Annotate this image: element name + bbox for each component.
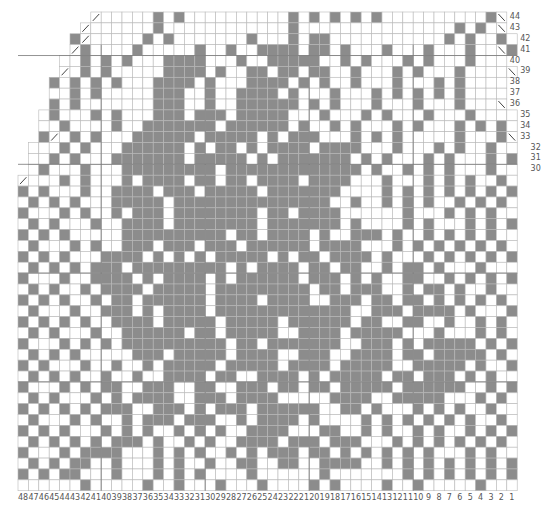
chart-cell-dark — [132, 164, 142, 175]
chart-cell-light — [434, 186, 444, 197]
chart-cell-dark — [70, 306, 80, 317]
chart-cell-dark — [164, 404, 174, 415]
chart-cell-dark — [330, 88, 340, 99]
chart-cell-light — [257, 132, 267, 143]
chart-cell-dark — [392, 371, 402, 382]
chart-cell-dark — [320, 66, 330, 77]
chart-cell-dark — [268, 121, 278, 132]
chart-cell-light — [444, 143, 454, 154]
chart-cell-dark — [153, 153, 163, 164]
chart-cell-light — [205, 306, 215, 317]
chart-cell-light — [392, 99, 402, 110]
chart-cell-light — [226, 425, 236, 436]
chart-cell-dark — [340, 251, 350, 262]
chart-cell-light — [257, 143, 267, 154]
chart-cell-dark — [476, 121, 486, 132]
chart-cell-light — [101, 230, 111, 241]
chart-cell-dark — [278, 273, 288, 284]
chart-cell-light — [392, 186, 402, 197]
chart-cell-dark — [60, 425, 70, 436]
chart-cell-light — [465, 12, 475, 23]
chart-cell-light — [49, 415, 59, 426]
chart-cell-light — [444, 23, 454, 34]
chart-cell-dark — [486, 284, 496, 295]
chart-cell-dark — [330, 240, 340, 251]
chart-cell-light — [28, 230, 38, 241]
chart-cell-dark — [174, 132, 184, 143]
chart-cell-dark — [60, 230, 70, 241]
chart-cell-light — [101, 77, 111, 88]
chart-cell-light — [91, 23, 101, 34]
chart-cell-dark — [247, 143, 257, 154]
chart-cell-light — [101, 186, 111, 197]
chart-cell-dark — [507, 360, 517, 371]
chart-cell-dark — [330, 371, 340, 382]
chart-cell-light — [476, 219, 486, 230]
chart-cell-dark — [496, 197, 506, 208]
chart-cell-light — [476, 371, 486, 382]
chart-cell-dark — [132, 143, 142, 154]
chart-cell-dark — [195, 415, 205, 426]
chart-cell-light — [195, 34, 205, 45]
chart-cell-light — [236, 77, 246, 88]
chart-cell-light — [195, 77, 205, 88]
chart-cell-light — [288, 425, 298, 436]
chart-cell-dark — [320, 208, 330, 219]
chart-cell-dark — [174, 262, 184, 273]
chart-cell-dark — [351, 251, 361, 262]
chart-cell-dark — [257, 480, 267, 491]
chart-cell-light — [216, 458, 226, 469]
chart-cell-light — [195, 88, 205, 99]
chart-cell-light — [372, 175, 382, 186]
chart-cell-light — [299, 393, 309, 404]
chart-cell-light — [392, 56, 402, 67]
chart-cell-light — [226, 480, 236, 491]
chart-cell-dark — [18, 208, 28, 219]
chart-cell-light — [413, 132, 423, 143]
column-label: 24 — [268, 493, 278, 503]
chart-cell-light — [80, 219, 90, 230]
chart-cell-dark — [184, 273, 194, 284]
chart-cell-dark — [278, 262, 288, 273]
chart-cell-light — [496, 469, 506, 480]
chart-cell-dark — [351, 393, 361, 404]
chart-cell-light — [288, 251, 298, 262]
chart-cell-light — [309, 295, 319, 306]
chart-cell-dark — [205, 219, 215, 230]
chart-cell-light — [226, 458, 236, 469]
chart-cell-light — [112, 480, 122, 491]
chart-cell-dark — [278, 121, 288, 132]
chart-cell-dark — [247, 295, 257, 306]
chart-cell-dark — [216, 230, 226, 241]
chart-cell-dark — [268, 110, 278, 121]
chart-cell-dark — [288, 338, 298, 349]
chart-cell-dark — [205, 164, 215, 175]
chart-cell-dark — [455, 99, 465, 110]
chart-cell-dark — [236, 382, 246, 393]
chart-cell-dark — [122, 175, 132, 186]
chart-cell-dark — [486, 230, 496, 241]
chart-cell-dark — [257, 251, 267, 262]
chart-cell-dark — [382, 306, 392, 317]
chart-cell-dark — [60, 295, 70, 306]
chart-cell-light — [340, 230, 350, 241]
chart-cell-light — [403, 88, 413, 99]
chart-cell-light — [340, 425, 350, 436]
chart-cell-light — [49, 306, 59, 317]
chart-cell-light — [424, 12, 434, 23]
chart-cell-dark — [70, 132, 80, 143]
chart-cell-light — [174, 436, 184, 447]
chart-cell-light — [288, 393, 298, 404]
chart-cell-dark — [184, 415, 194, 426]
chart-cell-dark — [91, 262, 101, 273]
chart-cell-dark — [195, 197, 205, 208]
chart-cell-light — [455, 175, 465, 186]
chart-cell-light — [455, 34, 465, 45]
chart-cell-light — [164, 45, 174, 56]
chart-cell-light — [340, 219, 350, 230]
chart-cell-light — [486, 175, 496, 186]
chart-cell-dark — [49, 328, 59, 339]
chart-cell-dark — [226, 371, 236, 382]
chart-cell-dark — [49, 197, 59, 208]
chart-cell-dark — [216, 393, 226, 404]
